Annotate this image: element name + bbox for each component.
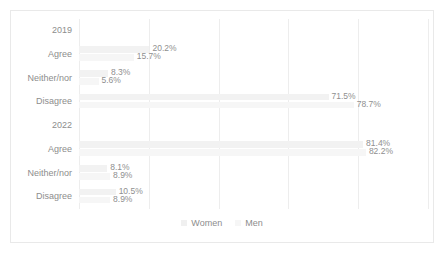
legend-swatch-men-icon — [235, 220, 241, 226]
bar-value-label-men: 15.7% — [137, 52, 161, 61]
bar-women[interactable] — [79, 141, 363, 148]
legend-item-men[interactable]: Men — [235, 218, 263, 228]
chart-legend: Women Men — [11, 218, 433, 228]
category-label: 2022 — [52, 114, 72, 138]
chart-group-row: 2019 — [79, 19, 428, 43]
bar-pair: 8.3%5.6% — [79, 67, 428, 91]
chart-bar-row: Disagree71.5%78.7% — [79, 90, 428, 114]
category-label: Disagree — [36, 185, 72, 209]
bar-men[interactable] — [79, 78, 99, 85]
category-label: Neither/nor — [27, 67, 72, 91]
legend-label-women: Women — [191, 218, 222, 228]
bar-men[interactable] — [79, 102, 354, 109]
bar-women[interactable] — [79, 94, 329, 101]
bar-value-label-men: 8.9% — [113, 195, 132, 204]
plot-area: 2019Agree20.2%15.7%Neither/nor8.3%5.6%Di… — [79, 19, 428, 209]
chart-bar-row: Agree20.2%15.7% — [79, 43, 428, 67]
category-label: Agree — [48, 138, 72, 162]
bar-women[interactable] — [79, 165, 107, 172]
bar-pair: 81.4%82.2% — [79, 138, 428, 162]
bar-men[interactable] — [79, 149, 366, 156]
bar-value-label-men: 8.9% — [113, 171, 132, 180]
bar-value-label-men: 5.6% — [102, 76, 121, 85]
category-label: Agree — [48, 43, 72, 67]
bar-women[interactable] — [79, 189, 116, 196]
bar-men[interactable] — [79, 54, 134, 61]
bar-value-label-men: 82.2% — [369, 147, 393, 156]
bar-pair: 8.1%8.9% — [79, 162, 428, 186]
chart-bar-row: Neither/nor8.3%5.6% — [79, 67, 428, 91]
category-label: Neither/nor — [27, 162, 72, 186]
bar-men[interactable] — [79, 197, 110, 204]
chart-bar-row: Disagree10.5%8.9% — [79, 185, 428, 209]
bar-men[interactable] — [79, 173, 110, 180]
legend-item-women[interactable]: Women — [181, 218, 222, 228]
chart-bar-row: Agree81.4%82.2% — [79, 138, 428, 162]
gridline-100 — [428, 19, 429, 209]
chart-group-row: 2022 — [79, 114, 428, 138]
legend-label-men: Men — [245, 218, 263, 228]
bar-pair: 20.2%15.7% — [79, 43, 428, 67]
chart-container: 2019Agree20.2%15.7%Neither/nor8.3%5.6%Di… — [10, 10, 434, 243]
category-label: 2019 — [52, 19, 72, 43]
category-label: Disagree — [36, 90, 72, 114]
bar-pair: 71.5%78.7% — [79, 90, 428, 114]
chart-bar-row: Neither/nor8.1%8.9% — [79, 162, 428, 186]
bar-pair: 10.5%8.9% — [79, 185, 428, 209]
bar-value-label-women: 71.5% — [332, 92, 356, 101]
bar-value-label-men: 78.7% — [357, 100, 381, 109]
legend-swatch-women-icon — [181, 220, 187, 226]
